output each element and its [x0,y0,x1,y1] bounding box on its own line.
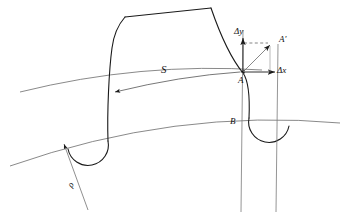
label-arc-length-s: S [161,64,167,75]
root-circle-arc [10,120,340,166]
diagram-canvas [0,0,346,218]
tooth-right-flank [211,8,249,118]
label-point-b: B [230,117,236,126]
tooth-tip-land [125,8,211,17]
arc-length-dimension-s [115,72,240,92]
root-fillet-left [68,141,108,165]
root-fillet-right [249,118,289,142]
fillet-radius-leader [64,144,88,210]
label-delta-x: Δx [277,66,286,75]
tooth-left-flank [108,17,125,141]
pitch-circle-arc [20,68,262,92]
resultant-displacement-vector [243,45,270,72]
gear-tooth-diagram: S A A' B Δy Δx ρ [0,0,346,218]
label-point-a-prime: A' [279,35,286,44]
label-delta-y: Δy [234,27,243,36]
label-point-a: A [238,76,244,85]
